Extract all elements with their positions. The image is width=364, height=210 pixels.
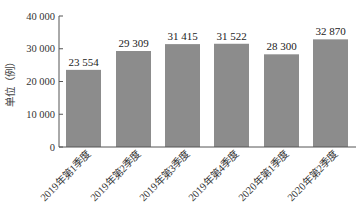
- bar: [165, 44, 200, 147]
- bar-value-label: 23 554: [68, 56, 99, 68]
- bar: [66, 70, 101, 147]
- y-tick-label: 40 000: [26, 11, 55, 22]
- bar-chart: 010 00020 00030 00040 000 23 55429 30931…: [0, 0, 364, 210]
- y-tick-label: 0: [50, 142, 55, 153]
- x-category-label: 2020年第1季度: [236, 147, 292, 203]
- x-category-label: 2019年第3季度: [137, 147, 193, 203]
- bars: 23 55429 30931 41531 52228 30032 870: [66, 25, 348, 147]
- bar-value-label: 31 522: [216, 30, 246, 42]
- bar: [214, 44, 249, 147]
- bar-value-label: 28 300: [266, 40, 297, 52]
- bar-value-label: 29 309: [118, 37, 149, 49]
- bar: [116, 51, 151, 147]
- y-tick-label: 10 000: [26, 109, 55, 120]
- y-tick-label: 30 000: [26, 43, 55, 54]
- y-axis-label: 单位（例）: [4, 57, 16, 107]
- x-axis: 2019年第1季度2019年第2季度2019年第3季度2019年第4季度2020…: [38, 147, 356, 203]
- bar-value-label: 32 870: [315, 25, 346, 37]
- bar: [264, 54, 299, 147]
- x-category-label: 2019年第4季度: [186, 147, 242, 203]
- bar: [313, 39, 348, 147]
- y-tick-label: 20 000: [26, 76, 55, 87]
- x-category-label: 2019年第2季度: [88, 147, 144, 203]
- y-axis: 010 00020 00030 00040 000: [26, 11, 63, 153]
- bar-value-label: 31 415: [167, 30, 198, 42]
- x-category-label: 2019年第1季度: [38, 147, 94, 203]
- x-category-label: 2020年第2季度: [285, 147, 341, 203]
